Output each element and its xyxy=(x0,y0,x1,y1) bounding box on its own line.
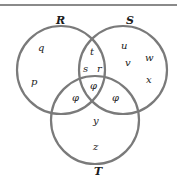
set-label-r: R xyxy=(55,14,65,27)
element-p: p xyxy=(31,76,38,87)
element-phi-center: φ xyxy=(90,80,97,91)
element-r: r xyxy=(97,63,103,74)
element-phi-s-t: φ xyxy=(112,92,119,103)
element-v: v xyxy=(125,57,131,68)
set-label-t: T xyxy=(94,165,103,178)
element-s: s xyxy=(83,63,88,74)
element-u: u xyxy=(121,40,127,51)
element-phi-r-t: φ xyxy=(72,92,79,103)
venn-diagram: R S T q p t s r u v w x φ φ φ y z xyxy=(0,0,177,181)
element-y: y xyxy=(92,115,99,126)
element-t: t xyxy=(90,46,95,57)
element-w: w xyxy=(145,52,154,63)
element-q: q xyxy=(38,42,44,53)
set-label-s: S xyxy=(126,14,134,27)
element-x: x xyxy=(146,74,152,85)
element-z: z xyxy=(92,141,99,152)
